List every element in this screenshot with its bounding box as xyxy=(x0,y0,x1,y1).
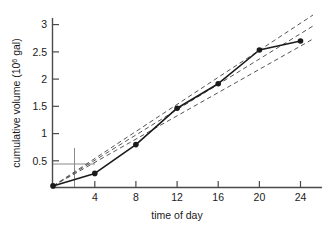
x-axis-title: time of day xyxy=(151,209,203,221)
data-point-4 xyxy=(215,81,221,87)
data-point-6 xyxy=(298,38,304,44)
x-tick-label-5: 24 xyxy=(295,191,307,203)
data-point-1 xyxy=(92,171,98,177)
data-point-2 xyxy=(133,142,139,148)
y-tick-label-2: 1.5 xyxy=(32,100,47,112)
chart-svg: 0.5 1 1.5 2 2.5 3 4 8 12 16 20 24 xyxy=(0,0,330,230)
data-point-0 xyxy=(50,183,56,189)
x-tick-label-3: 16 xyxy=(212,191,224,203)
x-tick-label-4: 20 xyxy=(254,191,266,203)
chart-background xyxy=(0,0,330,230)
y-axis-title-tail: gal) xyxy=(10,38,22,58)
x-tick-label-2: 12 xyxy=(171,191,183,203)
x-tick-label-1: 8 xyxy=(133,191,139,203)
y-axis-title: cumulative volume (106 gal) xyxy=(10,38,22,167)
y-tick-label-4: 2.5 xyxy=(32,46,47,58)
data-point-5 xyxy=(257,47,263,53)
y-tick-label-3: 2 xyxy=(41,73,47,85)
x-tick-label-0: 4 xyxy=(92,191,98,203)
chart-figure: 0.5 1 1.5 2 2.5 3 4 8 12 16 20 24 xyxy=(0,0,330,230)
y-tick-label-5: 3 xyxy=(41,18,47,30)
y-axis-title-base: cumulative volume (10 xyxy=(10,62,22,167)
y-tick-label-1: 1 xyxy=(41,127,47,139)
data-point-3 xyxy=(174,105,180,111)
y-tick-label-0: 0.5 xyxy=(32,155,47,167)
